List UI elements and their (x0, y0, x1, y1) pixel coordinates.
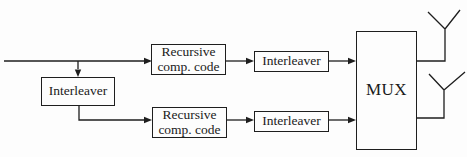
block-interleaver-top: Interleaver (254, 51, 329, 72)
block-mux-label: MUX (366, 83, 407, 98)
rcc-top-to-interleaver-top (226, 58, 254, 64)
antenna-icon (417, 72, 465, 118)
block-input-interleaver: Interleaver (41, 77, 115, 106)
interleaver-to-rcc-bottom (79, 106, 152, 123)
block-recursive-comp-code-top: Recursive comp. code (151, 44, 226, 75)
block-mux: MUX (356, 31, 417, 150)
block-interleaver-top-label: Interleaver (262, 54, 320, 69)
interleaver-bottom-to-mux (329, 117, 356, 123)
interleaver-top-to-mux (329, 58, 356, 64)
branch-to-interleaver (75, 61, 81, 77)
rcc-bottom-to-interleaver-bottom (227, 117, 254, 123)
block-interleaver-bottom: Interleaver (254, 111, 329, 132)
block-interleaver-bottom-label: Interleaver (262, 114, 320, 129)
block-diagram: Interleaver Recursive comp. code Recursi… (0, 0, 467, 157)
block-recursive-comp-code-bottom: Recursive comp. code (152, 107, 227, 138)
block-recursive-comp-code-top-label: Recursive comp. code (154, 45, 223, 74)
block-input-interleaver-label: Interleaver (49, 84, 107, 99)
block-recursive-comp-code-bottom-label: Recursive comp. code (155, 108, 224, 137)
antenna-icon (417, 10, 460, 61)
